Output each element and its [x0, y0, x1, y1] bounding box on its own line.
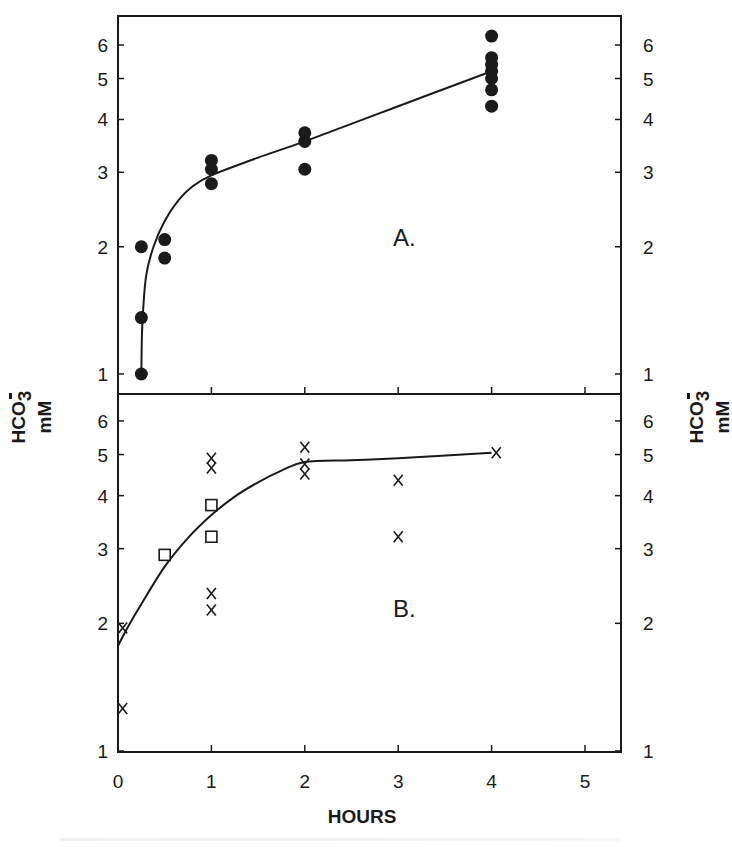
y-tick-label-right: 6	[643, 411, 654, 432]
x-axis-label: HOURS	[328, 806, 397, 827]
data-point-square	[159, 549, 170, 560]
y-tick-label-left: 3	[97, 539, 108, 560]
y-tick-label-left: 5	[97, 69, 108, 90]
data-point-x	[394, 531, 403, 542]
data-point-x	[300, 468, 309, 479]
data-point-circle	[158, 233, 171, 246]
y-tick-label-right: 6	[643, 35, 654, 56]
fit-curve	[118, 453, 492, 646]
y-label-unit: mM	[713, 372, 732, 462]
y-tick-label-right: 1	[643, 741, 654, 762]
data-point-x	[118, 622, 127, 633]
data-point-x	[207, 588, 216, 599]
fit-curve	[141, 71, 491, 374]
data-point-circle	[485, 83, 498, 96]
y-tick-label-left: 3	[97, 162, 108, 183]
data-point-square	[206, 500, 217, 511]
fit-curves	[118, 71, 492, 646]
y-tick-label-right: 3	[643, 162, 654, 183]
axis-ticks	[118, 45, 621, 752]
data-point-circle	[205, 163, 218, 176]
y-tick-label-left: 4	[97, 109, 108, 130]
data-point-circle	[135, 311, 148, 324]
x-tick-label: 4	[486, 771, 497, 792]
plot-area: 112233445566112233445566012345 A. B. HOU…	[0, 0, 732, 847]
data-point-x	[300, 442, 309, 453]
data-point-circle	[135, 368, 148, 381]
y-tick-label-right: 3	[643, 539, 654, 560]
data-point-circle	[298, 163, 311, 176]
y-tick-label-right: 4	[643, 486, 654, 507]
data-point-x	[394, 475, 403, 486]
panel-b-label: B.	[393, 595, 416, 622]
y-tick-label-left: 1	[97, 364, 108, 385]
data-point-x	[300, 458, 309, 469]
y-label-unit: mM	[35, 372, 55, 462]
data-point-circle	[205, 177, 218, 190]
data-point-circle	[485, 100, 498, 113]
data-point-circle	[158, 252, 171, 265]
data-point-circle	[135, 240, 148, 253]
data-point-square	[206, 531, 217, 542]
y-axis-label-right: HCO3 mM	[687, 372, 731, 462]
y-tick-label-right: 2	[643, 613, 654, 634]
y-tick-label-left: 6	[97, 35, 108, 56]
y-label-text: HCO	[686, 401, 707, 443]
x-tick-label: 3	[393, 771, 404, 792]
data-point-circle	[485, 72, 498, 85]
tick-labels: 112233445566112233445566012345	[97, 35, 654, 792]
y-label-subscript: 3	[692, 391, 713, 402]
y-tick-label-left: 5	[97, 445, 108, 466]
figure: 112233445566112233445566012345 A. B. HOU…	[0, 0, 732, 847]
y-tick-label-right: 5	[643, 69, 654, 90]
x-tick-label: 5	[580, 771, 591, 792]
y-axis-label-left: HCO3 mM	[9, 372, 53, 462]
y-tick-label-right: 4	[643, 109, 654, 130]
data-markers	[118, 30, 501, 714]
y-tick-label-right: 2	[643, 237, 654, 258]
data-point-x	[118, 703, 127, 714]
panel-a-label: A.	[393, 224, 416, 251]
y-tick-label-right: 1	[643, 364, 654, 385]
x-tick-label: 1	[206, 771, 217, 792]
x-tick-label: 2	[300, 771, 311, 792]
y-tick-label-right: 5	[643, 445, 654, 466]
y-tick-label-left: 6	[97, 411, 108, 432]
data-point-x	[207, 453, 216, 464]
data-point-circle	[298, 135, 311, 148]
plot-frames	[118, 16, 621, 752]
cropped-caption	[60, 838, 620, 841]
data-point-x	[207, 462, 216, 473]
data-point-x	[207, 605, 216, 616]
y-label-text: HCO	[8, 401, 29, 443]
y-tick-label-left: 2	[97, 613, 108, 634]
y-tick-label-left: 2	[97, 237, 108, 258]
data-point-circle	[485, 30, 498, 43]
outer-frame	[118, 16, 621, 752]
y-tick-label-left: 1	[97, 741, 108, 762]
x-tick-label: 0	[113, 771, 124, 792]
data-point-x	[492, 447, 501, 458]
y-tick-label-left: 4	[97, 486, 108, 507]
y-label-subscript: 3	[14, 391, 35, 402]
